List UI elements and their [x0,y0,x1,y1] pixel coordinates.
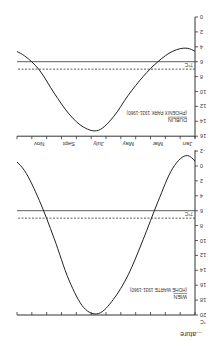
month-label: Sept [62,141,75,147]
wien-panel: -202468101214161820°C7°CWIEN(HOHE WARTE … [10,148,207,325]
wien-y-tick-label: 18 [200,297,206,303]
dublin-station-subtitle: (PHOENIX PARK 1931-1960) [126,110,187,115]
dublin-y-tick-label: 4 [200,44,203,50]
wien-y-tick-label: 6 [200,208,203,214]
wien-y-tick-label: 12 [200,252,206,258]
wien-y-tick-label: 10 [200,238,206,244]
dublin-y-tick-label: 10 [200,89,206,95]
month-label: May [123,141,134,147]
wien-y-tick-label: -2 [200,148,205,154]
month-label: Jan [183,141,193,147]
dublin-y-tick-label: 0 [200,14,203,20]
month-label: Mar [153,141,163,147]
dublin-y-tick-label: 6 [200,59,203,65]
wien-y-tick-label: 0 [200,163,203,169]
wien-y-tick-label: 8 [200,223,203,229]
wien-y-tick-label: 20 [200,312,206,318]
footer-text-fragment: ...ature [180,331,202,338]
wien-station-title: WIEN [173,294,187,300]
wien-y-tick-label: 2 [200,178,203,184]
rotated-figure: 0246810121416JanMarMayJulySeptNov7°CDUBL… [10,14,207,338]
dublin-y-tick-label: 12 [200,103,206,109]
temperature-figure: 0246810121416JanMarMayJulySeptNov7°CDUBL… [0,0,214,340]
month-label: July [93,141,104,147]
wien-y-tick-label: 4 [200,193,203,199]
wien-station-subtitle: (HOHE WARTE 1931-1960) [129,287,187,292]
dublin-threshold-label: 7°C [184,62,193,68]
wien-unit-label: °C [200,319,206,325]
dublin-y-tick-label: 2 [200,29,203,35]
dublin-y-tick-label: 8 [200,74,203,80]
wien-y-tick-label: 14 [200,267,206,273]
dublin-y-tick-label: 16 [200,133,206,139]
dublin-panel: 0246810121416JanMarMayJulySeptNov7°CDUBL… [10,14,207,147]
dublin-station-title: DUBLIN [168,117,187,123]
dublin-y-tick-label: 14 [200,118,206,124]
wien-y-tick-label: 16 [200,282,206,288]
wien-threshold-label: 7°C [184,211,193,217]
chart-canvas: 0246810121416JanMarMayJulySeptNov7°CDUBL… [0,0,214,340]
month-label: Nov [34,141,45,147]
